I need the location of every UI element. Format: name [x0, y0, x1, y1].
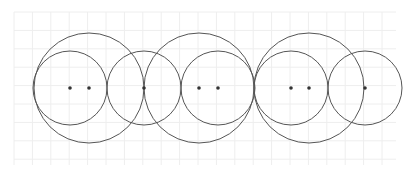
center-point [289, 86, 293, 90]
center-point [216, 86, 220, 90]
center-point [307, 86, 311, 90]
center-point [87, 86, 91, 90]
circles-diagram [0, 0, 417, 173]
center-point-group [68, 86, 367, 90]
center-point [363, 86, 367, 90]
center-point [197, 86, 201, 90]
center-point [68, 86, 72, 90]
center-point [142, 86, 146, 90]
